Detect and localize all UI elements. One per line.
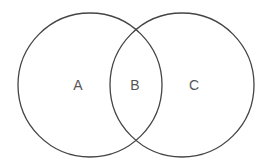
region-label-c: C (189, 78, 199, 92)
region-label-b: B (130, 78, 139, 92)
region-label-a: A (73, 78, 82, 92)
left-circle (18, 13, 162, 157)
venn-diagram: A B C (0, 0, 269, 164)
